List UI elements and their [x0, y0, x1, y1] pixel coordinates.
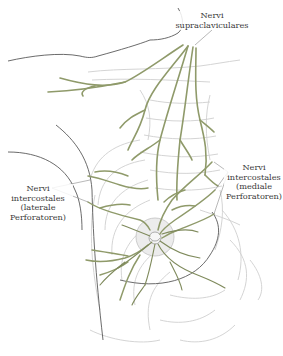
label-line: supraclaviculares: [168, 21, 256, 31]
label-nervi-intercostales-laterale: Nervi intercostales (laterale Perforator…: [3, 184, 73, 222]
label-line: Perforatoren): [224, 192, 283, 202]
label-nervi-intercostales-mediale: Nervi intercostales (mediale Perforatore…: [224, 163, 283, 201]
label-nervi-supraclaviculares: Nervi supraclaviculares: [168, 11, 256, 30]
nerve-anatomy-diagram: Nervi supraclaviculares Nervi intercosta…: [0, 0, 283, 356]
nerves-supraclavicular: [48, 45, 218, 200]
body-outline: [8, 8, 219, 340]
leader-supraclavicular: [195, 30, 212, 45]
label-line: Perforatoren): [3, 213, 73, 223]
